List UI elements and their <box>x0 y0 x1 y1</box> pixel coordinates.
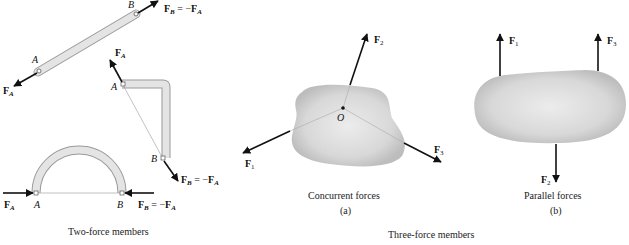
force-F1-label: F1 <box>245 158 255 171</box>
point-O-label: O <box>337 112 344 123</box>
force-F2-label: F2 <box>541 174 551 187</box>
arch-member <box>3 150 154 195</box>
label-B: B <box>128 0 134 10</box>
label-B: B <box>117 199 123 210</box>
tag-a: (a) <box>340 205 351 216</box>
force-FA-label: FA <box>4 199 15 212</box>
force-F3-label: F3 <box>607 35 617 48</box>
force-F1-label: F1 <box>509 35 519 48</box>
label-A: A <box>31 54 39 65</box>
caption-two-force-members: Two-force members <box>68 226 149 237</box>
force-F2-label: F2 <box>374 34 384 47</box>
parallel-body <box>474 34 626 182</box>
caption-three-force-members: Three-force members <box>388 229 474 240</box>
concurrent-body <box>243 34 441 166</box>
statics-diagram: A B FA FB = −FA A B FA FB = −FA FA A B F… <box>0 0 629 245</box>
label-A: A <box>33 199 41 210</box>
force-FB-label: FB = −FA <box>138 199 176 212</box>
L-bar-member <box>110 60 178 181</box>
label-B: B <box>151 153 157 164</box>
tag-b: (b) <box>550 205 562 216</box>
force-FB-label: FB = −FA <box>181 174 219 187</box>
caption-parallel-forces: Parallel forces <box>524 190 581 201</box>
force-FB-label: FB = −FA <box>164 3 202 16</box>
label-A: A <box>110 81 118 92</box>
force-FA-label: FA <box>115 47 126 60</box>
caption-concurrent-forces: Concurrent forces <box>308 190 380 201</box>
straight-bar-member <box>14 1 158 86</box>
force-F3-label: F3 <box>434 144 444 157</box>
force-FA-label: FA <box>3 85 14 98</box>
